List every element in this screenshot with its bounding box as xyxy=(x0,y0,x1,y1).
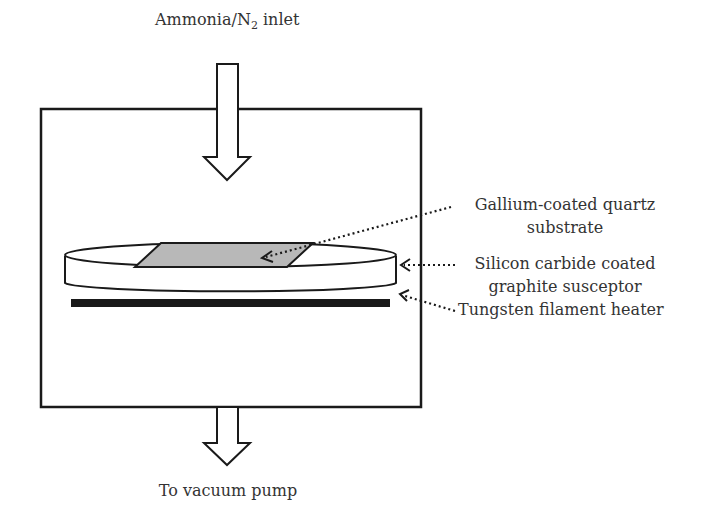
substrate-label-line2: substrate xyxy=(445,218,685,238)
outlet-arrow-icon xyxy=(204,407,250,465)
inlet-arrow-icon xyxy=(204,64,250,180)
inlet-label-text: Ammonia/N xyxy=(155,10,251,29)
inlet-label-subscript: 2 xyxy=(251,19,258,32)
susceptor-label-line2: graphite susceptor xyxy=(445,277,685,297)
susceptor-label-line1: Silicon carbide coated xyxy=(445,254,685,274)
outlet-label: To vacuum pump xyxy=(128,481,328,501)
heater-label: Tungsten filament heater xyxy=(458,300,664,320)
substrate-label-line1: Gallium-coated quartz xyxy=(445,195,685,215)
quartz-substrate xyxy=(135,243,313,267)
inlet-label: Ammonia/N2 inlet xyxy=(155,10,299,30)
tungsten-heater xyxy=(71,299,390,307)
inlet-label-suffix: inlet xyxy=(258,10,300,29)
